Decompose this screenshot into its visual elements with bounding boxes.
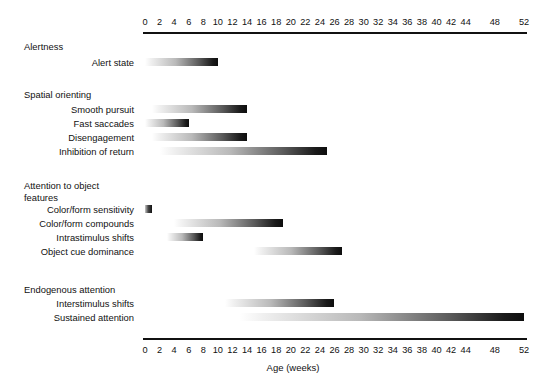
row-label-color-form-sensitivity: Color/form sensitivity xyxy=(47,204,134,216)
x-tick-label: 34 xyxy=(388,16,398,28)
x-tick-label: 24 xyxy=(315,344,325,356)
bar-object-cue-dominance xyxy=(254,247,341,255)
row-label-intrastimulus-shifts: Intrastimulus shifts xyxy=(56,232,134,244)
row-label-disengagement: Disengagement xyxy=(68,132,134,144)
x-tick-label: 36 xyxy=(402,16,412,28)
group-label-endogenous-attention: Endogenous attention xyxy=(24,284,115,296)
bar-disengagement xyxy=(152,133,247,141)
x-tick-label: 44 xyxy=(461,344,471,356)
bottom-axis-line xyxy=(143,338,527,340)
row-label-smooth-pursuit: Smooth pursuit xyxy=(71,104,134,116)
bar-inhibition-of-return xyxy=(160,147,328,155)
row-label-interstimulus-shifts: Interstimulus shifts xyxy=(56,298,134,310)
x-tick-label: 30 xyxy=(359,344,369,356)
row-label-inhibition-of-return: Inhibition of return xyxy=(59,146,134,158)
x-tick-label: 16 xyxy=(256,344,266,356)
x-tick-label: 8 xyxy=(201,344,206,356)
x-tick-label: 20 xyxy=(286,344,296,356)
x-tick-label: 12 xyxy=(227,344,237,356)
x-tick-label: 36 xyxy=(402,344,412,356)
bar-sustained-attention xyxy=(240,313,524,321)
x-tick-label: 42 xyxy=(446,344,456,356)
x-tick-label: 10 xyxy=(213,344,223,356)
top-axis-tick-labels: 0246810121416182022242628303234363840424… xyxy=(0,16,538,30)
bar-color-form-sensitivity xyxy=(145,205,152,213)
group-label-attention-to-object-features: Attention to object features xyxy=(24,180,99,203)
x-tick-label: 26 xyxy=(329,344,339,356)
x-tick-label: 18 xyxy=(271,344,281,356)
row-label-sustained-attention: Sustained attention xyxy=(54,312,134,324)
x-tick-label: 32 xyxy=(373,344,383,356)
x-tick-label: 8 xyxy=(201,16,206,28)
x-tick-label: 14 xyxy=(242,344,252,356)
x-tick-label: 38 xyxy=(417,16,427,28)
x-tick-label: 38 xyxy=(417,344,427,356)
row-label-object-cue-dominance: Object cue dominance xyxy=(41,246,134,258)
group-label-spatial-orienting: Spatial orienting xyxy=(24,89,91,101)
bar-color-form-compounds xyxy=(174,219,283,227)
x-tick-label: 28 xyxy=(344,344,354,356)
bar-smooth-pursuit xyxy=(152,105,247,113)
x-axis-title: Age (weeks) xyxy=(0,362,538,373)
x-tick-label: 4 xyxy=(172,344,177,356)
x-tick-label: 14 xyxy=(242,16,252,28)
attention-development-chart: 0246810121416182022242628303234363840424… xyxy=(0,0,538,383)
x-tick-label: 0 xyxy=(142,344,147,356)
bar-alert-state xyxy=(145,58,218,66)
x-tick-label: 52 xyxy=(519,16,529,28)
x-tick-label: 22 xyxy=(300,16,310,28)
x-tick-label: 2 xyxy=(157,16,162,28)
bar-fast-saccades xyxy=(145,119,189,127)
x-tick-label: 48 xyxy=(490,16,500,28)
x-tick-label: 48 xyxy=(490,344,500,356)
x-tick-label: 44 xyxy=(461,16,471,28)
x-tick-label: 22 xyxy=(300,344,310,356)
x-tick-label: 10 xyxy=(213,16,223,28)
x-tick-label: 40 xyxy=(431,16,441,28)
x-tick-label: 4 xyxy=(172,16,177,28)
x-tick-label: 40 xyxy=(431,344,441,356)
x-tick-label: 26 xyxy=(329,16,339,28)
bar-interstimulus-shifts xyxy=(225,299,334,307)
x-axis-title-text: Age (weeks) xyxy=(267,362,320,373)
x-tick-label: 34 xyxy=(388,344,398,356)
x-tick-label: 42 xyxy=(446,16,456,28)
x-tick-label: 28 xyxy=(344,16,354,28)
x-tick-label: 18 xyxy=(271,16,281,28)
x-tick-label: 2 xyxy=(157,344,162,356)
x-tick-label: 6 xyxy=(186,16,191,28)
bottom-axis-tick-labels: 0246810121416182022242628303234363840424… xyxy=(0,344,538,358)
x-tick-label: 52 xyxy=(519,344,529,356)
x-tick-label: 20 xyxy=(286,16,296,28)
x-tick-label: 6 xyxy=(186,344,191,356)
x-tick-label: 0 xyxy=(142,16,147,28)
x-tick-label: 16 xyxy=(256,16,266,28)
top-axis-line xyxy=(143,32,527,34)
group-label-alertness: Alertness xyxy=(24,41,63,53)
x-tick-label: 12 xyxy=(227,16,237,28)
row-label-fast-saccades: Fast saccades xyxy=(74,118,134,130)
row-label-alert-state: Alert state xyxy=(92,57,134,69)
row-label-color-form-compounds: Color/form compounds xyxy=(39,218,134,230)
x-tick-label: 30 xyxy=(359,16,369,28)
x-tick-label: 32 xyxy=(373,16,383,28)
x-tick-label: 24 xyxy=(315,16,325,28)
bar-intrastimulus-shifts xyxy=(167,233,203,241)
